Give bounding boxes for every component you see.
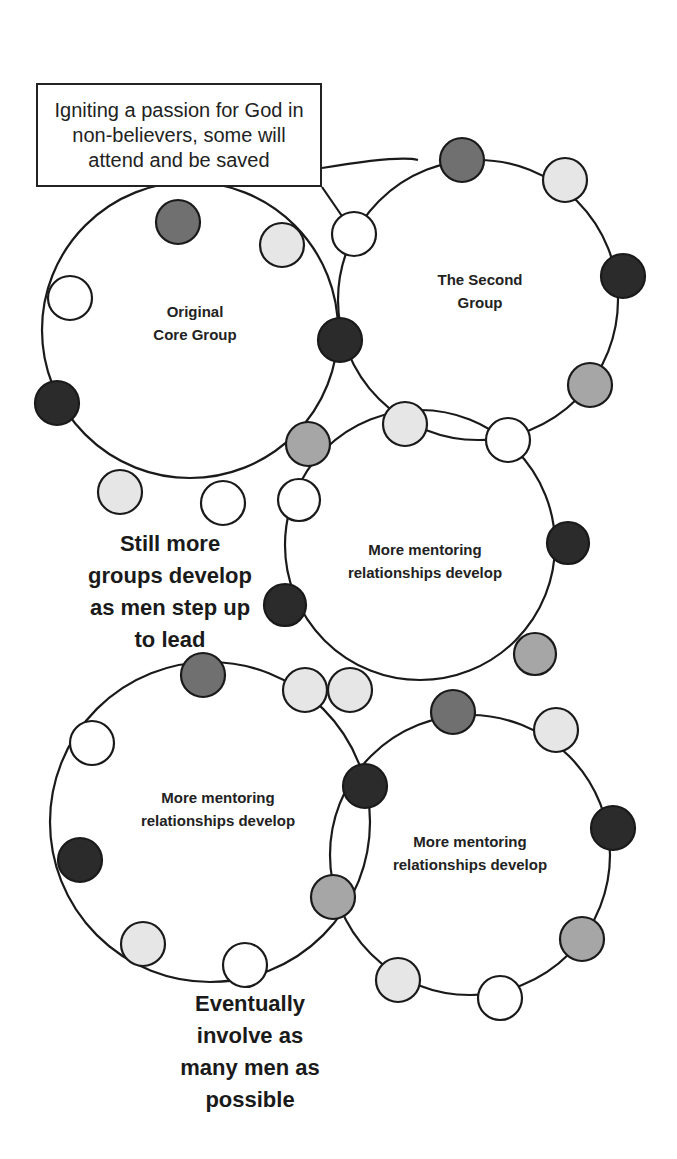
member-node [478,976,522,1020]
member-node [70,721,114,765]
member-node [156,200,200,244]
label-bottom-right-group: More mentoring relationships develop [370,830,570,876]
member-node [318,318,362,362]
member-node [332,212,376,256]
member-node [260,223,304,267]
label-original-core-group: Original Core Group [110,300,280,346]
label-bottom-left-group: More mentoring relationships develop [108,786,328,832]
callout-text: Igniting a passion for God in non-believ… [46,98,312,173]
note-eventually: Eventually involve as many men as possib… [170,988,330,1116]
member-node [181,653,225,697]
member-node [121,922,165,966]
member-node [343,764,387,808]
member-node [376,958,420,1002]
callout-connector-2 [322,159,418,168]
member-node [311,875,355,919]
callout-box: Igniting a passion for God in non-believ… [36,83,322,187]
member-node [591,806,635,850]
member-node [534,708,578,752]
member-node [568,363,612,407]
member-node [486,418,530,462]
member-node [383,402,427,446]
member-node [547,522,589,564]
member-node [48,276,92,320]
member-node [601,254,645,298]
member-node [514,633,556,675]
note-still-more-groups: Still more groups develop as men step up… [70,528,270,656]
member-node [328,668,372,712]
member-node [223,943,267,987]
member-node [278,479,320,521]
member-node [560,917,604,961]
member-node [201,481,245,525]
member-node [98,470,142,514]
member-node [283,668,327,712]
member-node [431,690,475,734]
member-node [35,381,79,425]
label-middle-group: More mentoring relationships develop [325,538,525,584]
member-node [543,158,587,202]
member-node [264,584,306,626]
member-node [58,838,102,882]
member-node [440,138,484,182]
member-node [286,422,330,466]
label-second-group: The Second Group [395,268,565,314]
